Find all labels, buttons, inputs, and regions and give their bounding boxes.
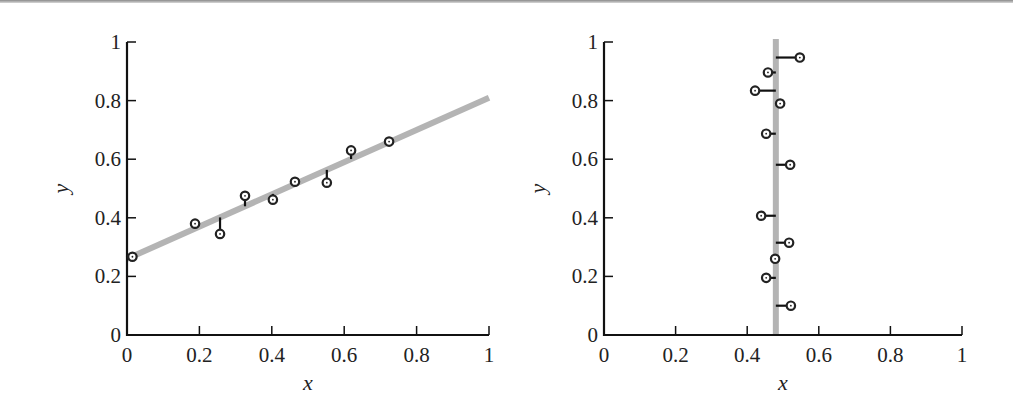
x-tick-label: 0.6	[806, 343, 832, 367]
data-point-center	[272, 199, 274, 201]
y-tick-label: 0.2	[95, 264, 121, 288]
data-point-center	[765, 133, 767, 135]
x-tick-label: 0.2	[662, 343, 688, 367]
y-tick-label: 0	[588, 323, 599, 347]
x-tick-label: 0.4	[259, 343, 286, 367]
fit-line	[127, 98, 489, 259]
y-axis-label: y	[48, 183, 73, 195]
data-point-center	[799, 57, 801, 59]
x-tick-label: 0.2	[186, 343, 212, 367]
data-point-center	[326, 182, 328, 184]
data-point-center	[779, 103, 781, 105]
x-tick-label: 0.8	[403, 343, 429, 367]
y-tick-label: 0	[111, 323, 122, 347]
y-tick-label: 1	[588, 30, 599, 54]
data-point-center	[790, 305, 792, 307]
data-point-center	[219, 233, 221, 235]
y-tick-label: 0.2	[572, 264, 598, 288]
y-tick-label: 0.6	[572, 147, 598, 171]
data-point-center	[244, 195, 246, 197]
y-tick-label: 0.4	[95, 206, 122, 230]
right-chart-vertical-fit: 00.20.40.60.8100.20.40.60.81xy	[525, 30, 967, 395]
x-tick-label: 0	[122, 343, 133, 367]
y-axis-label: y	[525, 183, 550, 195]
x-tick-label: 0	[599, 343, 610, 367]
y-tick-label: 1	[111, 30, 122, 54]
x-axis-label: x	[777, 370, 788, 395]
data-point-center	[294, 181, 296, 183]
left-chart-linear-fit: 00.20.40.60.8100.20.40.60.81xy	[48, 30, 494, 395]
y-tick-label: 0.6	[95, 147, 121, 171]
data-point-center	[132, 256, 134, 258]
y-tick-label: 0.4	[572, 206, 599, 230]
data-point-center	[194, 223, 196, 225]
data-point-center	[767, 72, 769, 74]
x-tick-label: 0.4	[734, 343, 761, 367]
y-tick-label: 0.8	[572, 89, 598, 113]
data-point-center	[754, 90, 756, 92]
x-axis-label: x	[302, 370, 313, 395]
data-point-center	[788, 242, 790, 244]
x-tick-label: 0.6	[331, 343, 357, 367]
data-point-center	[350, 150, 352, 152]
data-point-center	[774, 258, 776, 260]
data-point-center	[760, 215, 762, 217]
y-tick-label: 0.8	[95, 89, 121, 113]
figure-canvas: 00.20.40.60.8100.20.40.60.81xy 00.20.40.…	[0, 0, 1013, 419]
data-point-center	[765, 277, 767, 279]
data-point-center	[789, 164, 791, 166]
x-tick-label: 1	[957, 343, 968, 367]
x-tick-label: 1	[484, 343, 495, 367]
x-tick-label: 0.8	[877, 343, 903, 367]
data-point-center	[388, 141, 390, 143]
